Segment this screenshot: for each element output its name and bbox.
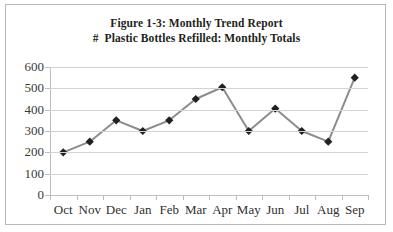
data-point-marker[interactable] xyxy=(351,74,359,82)
plot-area xyxy=(50,67,368,195)
chart-title: Figure 1-3: Monthly Trend Report # Plast… xyxy=(6,16,387,45)
x-axis-tick xyxy=(368,195,369,200)
gridline xyxy=(50,110,368,111)
gridline xyxy=(50,195,368,196)
gridline xyxy=(50,152,368,153)
gridline xyxy=(50,174,368,175)
y-axis-tick-label: 200 xyxy=(6,144,44,160)
x-axis-tick-label: Jul xyxy=(294,202,309,218)
x-axis-tick-label: Mar xyxy=(185,202,207,218)
y-axis-labels: 0100200300400500600 xyxy=(6,5,44,232)
x-axis-tick-label: Aug xyxy=(317,202,339,218)
gridline xyxy=(50,67,368,68)
chart-title-line-1: Figure 1-3: Monthly Trend Report xyxy=(6,16,387,31)
y-axis-tick-label: 600 xyxy=(6,59,44,75)
data-point-marker[interactable] xyxy=(324,138,332,146)
x-axis-tick-label: Oct xyxy=(54,202,73,218)
y-axis-tick-label: 300 xyxy=(6,123,44,139)
gridline xyxy=(50,88,368,89)
y-axis-tick-label: 400 xyxy=(6,102,44,118)
chart-figure: Figure 1-3: Monthly Trend Report # Plast… xyxy=(5,4,386,225)
y-axis-tick-label: 100 xyxy=(6,166,44,182)
x-axis-tick-label: Feb xyxy=(160,202,180,218)
gridline xyxy=(50,131,368,132)
x-axis-tick-label: Nov xyxy=(79,202,101,218)
x-axis-tick-label: Apr xyxy=(212,202,232,218)
chart-title-line-2: # Plastic Bottles Refilled: Monthly Tota… xyxy=(6,31,387,46)
y-axis-tick-label: 0 xyxy=(6,187,44,203)
x-axis-tick-label: Jun xyxy=(266,202,284,218)
x-axis-tick-label: Jan xyxy=(134,202,151,218)
x-axis-tick-label: Dec xyxy=(106,202,127,218)
x-axis-tick-label: May xyxy=(237,202,261,218)
y-axis-tick-label: 500 xyxy=(6,80,44,96)
x-axis-tick-label: Sep xyxy=(345,202,365,218)
